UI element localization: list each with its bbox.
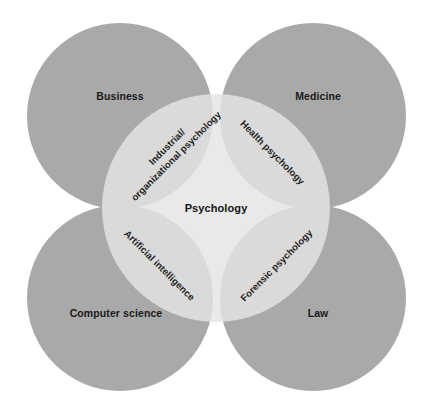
label-computer-science: Computer science <box>70 307 163 319</box>
label-psychology: Psychology <box>185 202 249 214</box>
label-law: Law <box>308 307 329 319</box>
venn-diagram: Business Medicine Computer science Law P… <box>0 0 432 412</box>
label-business: Business <box>96 90 144 102</box>
venn-diagram-canvas: Business Medicine Computer science Law P… <box>0 0 432 412</box>
label-medicine: Medicine <box>295 90 341 102</box>
